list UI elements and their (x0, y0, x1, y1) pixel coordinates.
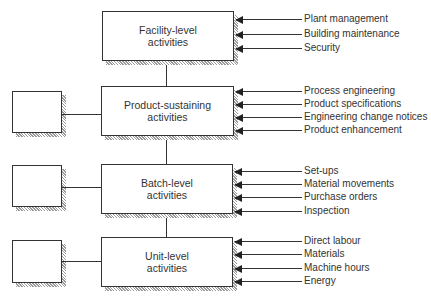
driver-arrow (236, 48, 302, 49)
driver-arrow (235, 184, 302, 185)
arrowhead-icon (234, 168, 242, 176)
product-sustaining-title: Product-sustaining (124, 99, 211, 112)
driver-arrow (235, 171, 302, 172)
driver-arrow (235, 254, 302, 255)
driver-label: Direct labour (304, 235, 361, 247)
driver-label: Purchase orders (304, 191, 377, 203)
driver-arrow (235, 211, 302, 212)
driver-label: Set-ups (304, 165, 338, 177)
arrowhead-icon (235, 114, 243, 122)
arrowhead-icon (234, 251, 242, 259)
driver-arrow (236, 117, 302, 118)
driver-arrow (235, 241, 302, 242)
batch-level-box: Batch-level activities (101, 164, 233, 214)
driver-label: Engineering change notices (304, 111, 427, 123)
unit-side-connector (62, 261, 101, 262)
batch-level-subtitle: activities (141, 189, 193, 202)
batch-side-connector (62, 187, 101, 188)
driver-arrow (236, 91, 302, 92)
driver-arrow (236, 104, 302, 105)
product-sustaining-subtitle: activities (124, 111, 211, 124)
driver-label: Plant management (304, 13, 388, 25)
arrowhead-icon (234, 265, 242, 273)
arrowhead-icon (235, 88, 243, 96)
arrowhead-icon (235, 127, 243, 135)
arrowhead-icon (234, 194, 242, 202)
driver-label: Inspection (304, 205, 350, 217)
driver-arrow (236, 19, 302, 20)
facility-level-box: Facility-level activities (102, 11, 234, 61)
driver-arrow (235, 268, 302, 269)
batch-side-box (12, 165, 62, 207)
driver-label: Energy (304, 275, 336, 287)
product-side-connector (62, 114, 101, 115)
driver-label: Machine hours (304, 262, 370, 274)
arrowhead-icon (235, 101, 243, 109)
driver-label: Security (304, 42, 340, 54)
driver-label: Materials (304, 248, 345, 260)
arrowhead-icon (234, 238, 242, 246)
driver-label: Product enhancement (304, 124, 402, 136)
facility-level-subtitle: activities (139, 36, 197, 49)
driver-arrow (236, 34, 302, 35)
arrowhead-icon (235, 16, 243, 24)
unit-side-box (12, 240, 62, 283)
batch-level-title: Batch-level (141, 177, 193, 190)
product-side-box (12, 91, 62, 133)
arrowhead-icon (234, 181, 242, 189)
driver-arrow (235, 281, 302, 282)
driver-label: Product specifications (304, 98, 401, 110)
arrowhead-icon (235, 45, 243, 53)
arrowhead-icon (234, 208, 242, 216)
driver-arrow (236, 130, 302, 131)
unit-level-box: Unit-level activities (101, 237, 233, 287)
unit-level-subtitle: activities (145, 262, 189, 275)
product-sustaining-box: Product-sustaining activities (101, 86, 234, 136)
arrowhead-icon (234, 278, 242, 286)
facility-level-title: Facility-level (139, 24, 197, 37)
driver-arrow (235, 197, 302, 198)
connector-product-batch (166, 136, 167, 165)
arrowhead-icon (235, 31, 243, 39)
driver-label: Building maintenance (304, 28, 400, 40)
driver-label: Process engineering (304, 85, 395, 97)
unit-level-title: Unit-level (145, 250, 189, 263)
driver-label: Material movements (304, 178, 394, 190)
